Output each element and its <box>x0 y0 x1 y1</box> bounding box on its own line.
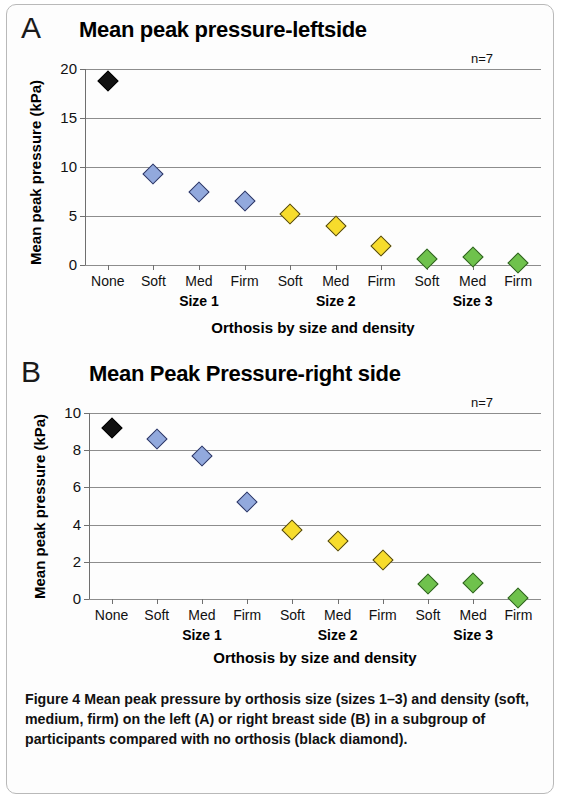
x-tick-mark <box>336 265 337 270</box>
x-tick-label: Soft <box>404 273 450 289</box>
data-point-marker <box>327 531 348 552</box>
data-point-marker <box>508 252 529 273</box>
y-tick-mark <box>80 265 85 266</box>
data-point-marker <box>463 573 484 594</box>
gridline <box>85 216 541 217</box>
panel-a-letter: A <box>21 11 41 45</box>
y-tick-label: 6 <box>43 478 81 495</box>
y-tick-label: 0 <box>43 590 81 607</box>
y-tick-label: 10 <box>39 158 77 175</box>
gridline <box>89 450 541 451</box>
data-point-marker <box>371 236 392 257</box>
x-tick-label: Med <box>450 273 496 289</box>
size-group-label: Size 1 <box>157 627 247 643</box>
y-axis-line <box>89 413 90 599</box>
caption-text: Mean peak pressure by orthosis size (siz… <box>25 691 529 747</box>
x-tick-label: Firm <box>496 607 541 623</box>
x-tick-label: Med <box>179 607 224 623</box>
caption-label: Figure 4 <box>25 691 80 707</box>
x-tick-label: Soft <box>134 607 179 623</box>
y-tick-label: 0 <box>39 256 77 273</box>
data-point-marker <box>191 445 212 466</box>
gridline <box>89 562 541 563</box>
panel-a-title: Mean peak pressure-leftside <box>79 17 367 43</box>
y-tick-label: 2 <box>43 553 81 570</box>
x-tick-mark <box>153 265 154 270</box>
y-tick-label: 20 <box>39 60 77 77</box>
x-tick-mark <box>473 599 474 604</box>
data-point-marker <box>416 249 437 270</box>
size-group-label: Size 3 <box>427 293 518 309</box>
x-tick-mark <box>157 599 158 604</box>
size-group-label: Size 2 <box>292 627 382 643</box>
x-tick-label: Med <box>451 607 496 623</box>
chart-panel-b: B Mean Peak Pressure-right side n=7 Mean… <box>7 347 555 667</box>
x-tick-mark <box>199 265 200 270</box>
panel-b-plot-area: 0246810NoneSoftMedFirmSoftMedFirmSoftMed… <box>89 413 541 599</box>
x-tick-mark <box>381 265 382 270</box>
x-tick-label: Soft <box>131 273 177 289</box>
x-tick-mark <box>290 265 291 270</box>
gridline <box>85 118 541 119</box>
figure-caption: Figure 4 Mean peak pressure by orthosis … <box>25 689 533 749</box>
x-tick-label: Soft <box>270 607 315 623</box>
x-tick-mark <box>247 599 248 604</box>
data-point-marker <box>282 520 303 541</box>
y-tick-label: 8 <box>43 441 81 458</box>
x-tick-mark <box>112 599 113 604</box>
x-tick-label: Med <box>313 273 359 289</box>
x-tick-label: Firm <box>222 273 268 289</box>
data-point-marker <box>97 70 118 91</box>
panel-b-n-label: n=7 <box>471 395 493 410</box>
panel-b-letter: B <box>21 355 41 389</box>
x-tick-label: None <box>89 607 134 623</box>
y-tick-mark <box>84 599 89 600</box>
data-point-marker <box>234 191 255 212</box>
x-tick-label: Med <box>176 273 222 289</box>
panel-a-plot-area: 05101520NoneSoftMedFirmSoftMedFirmSoftMe… <box>85 69 541 265</box>
x-tick-label: Med <box>315 607 360 623</box>
panel-a-x-axis-title: Orthosis by size and density <box>85 319 541 336</box>
x-tick-label: Soft <box>267 273 313 289</box>
x-tick-label: Firm <box>225 607 270 623</box>
panel-a-n-label: n=7 <box>471 51 493 66</box>
data-point-marker <box>508 587 529 608</box>
size-group-label: Size 2 <box>290 293 381 309</box>
data-point-marker <box>417 574 438 595</box>
x-tick-mark <box>245 265 246 270</box>
x-tick-label: Soft <box>405 607 450 623</box>
data-point-marker <box>146 428 167 449</box>
data-point-marker <box>325 215 346 236</box>
chart-panel-a: A Mean peak pressure-leftside n=7 Mean p… <box>7 7 555 347</box>
y-tick-label: 4 <box>43 516 81 533</box>
x-tick-mark <box>383 599 384 604</box>
data-point-marker <box>101 417 122 438</box>
x-tick-label: Firm <box>360 607 405 623</box>
x-tick-mark <box>202 599 203 604</box>
x-tick-mark <box>108 265 109 270</box>
data-point-marker <box>188 181 209 202</box>
gridline <box>89 525 541 526</box>
x-tick-label: Firm <box>359 273 405 289</box>
panel-b-title: Mean Peak Pressure-right side <box>89 361 401 387</box>
gridline <box>85 69 541 70</box>
x-tick-mark <box>338 599 339 604</box>
x-tick-label: Firm <box>495 273 541 289</box>
x-tick-mark <box>292 599 293 604</box>
data-point-marker <box>372 549 393 570</box>
y-axis-line <box>85 69 86 265</box>
gridline <box>89 413 541 414</box>
size-group-label: Size 1 <box>153 293 244 309</box>
data-point-marker <box>237 492 258 513</box>
data-point-marker <box>280 203 301 224</box>
y-tick-label: 15 <box>39 109 77 126</box>
x-tick-mark <box>428 599 429 604</box>
panel-b-x-axis-title: Orthosis by size and density <box>89 649 541 666</box>
figure-frame: A Mean peak pressure-leftside n=7 Mean p… <box>6 4 554 794</box>
gridline <box>89 487 541 488</box>
size-group-label: Size 3 <box>428 627 518 643</box>
y-tick-label: 5 <box>39 207 77 224</box>
y-tick-label: 10 <box>43 404 81 421</box>
x-tick-label: None <box>85 273 131 289</box>
